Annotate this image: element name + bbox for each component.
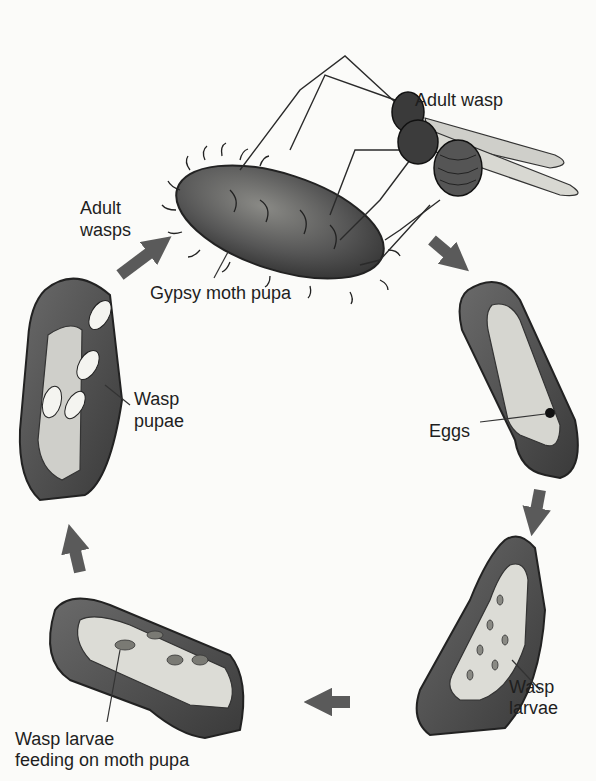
label-wasp-pupae-1: Wasp xyxy=(134,389,179,410)
label-adult-wasp: Adult wasp xyxy=(415,90,503,111)
label-wasp-larvae-1: Wasp xyxy=(509,677,554,698)
label-adult-wasps-2: wasps xyxy=(80,220,131,241)
arrow-to-eggs xyxy=(432,240,458,262)
label-wasp-pupae-2: pupae xyxy=(134,411,184,432)
label-eggs: Eggs xyxy=(429,421,470,442)
arrow-to-wasp-pupae xyxy=(72,538,80,572)
label-gypsy-moth-pupa: Gypsy moth pupa xyxy=(150,283,291,304)
diagram-illustration xyxy=(0,0,596,781)
label-adult-wasps-1: Adult xyxy=(80,198,121,219)
life-cycle-diagram: Adult wasp Gypsy moth pupa Eggs Wasp lar… xyxy=(0,0,596,781)
label-larvae-feeding-2: feeding on moth pupa xyxy=(15,750,189,771)
label-larvae-feeding-1: Wasp larvae xyxy=(15,729,114,750)
label-wasp-larvae-2: larvae xyxy=(509,698,558,719)
arrow-to-larvae xyxy=(534,490,540,522)
gypsy-moth-pupa-illustration xyxy=(162,143,400,304)
gypsy-moth-pupa-leader xyxy=(214,252,228,278)
pupa-with-eggs-illustration xyxy=(460,282,578,478)
pupa-larvae-feeding-illustration xyxy=(50,599,243,738)
pupa-with-wasp-pupae-illustration xyxy=(20,279,130,500)
arrow-adult-wasps xyxy=(120,245,160,275)
